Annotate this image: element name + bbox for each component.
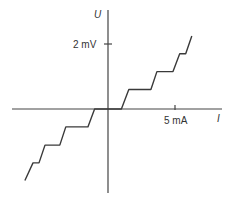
x-axis-label: I (217, 113, 220, 124)
y-axis-label: U (94, 9, 102, 20)
chart-canvas: U I 2 mV 5 mA (0, 0, 234, 199)
x-tick-label: 5 mA (164, 115, 188, 126)
y-tick-label: 2 mV (73, 39, 97, 50)
